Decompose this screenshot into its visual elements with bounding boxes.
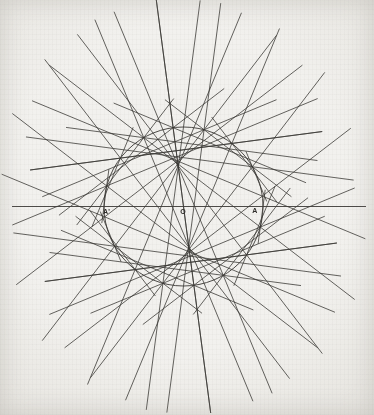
tangent-line — [90, 72, 324, 377]
tangent-line — [95, 20, 253, 402]
tangent-line — [42, 35, 276, 340]
point-label-A-prime: A' — [103, 208, 110, 215]
tangent-line — [90, 210, 156, 296]
point-label-O: O — [180, 208, 186, 215]
figure-canvas: A'OA — [0, 0, 374, 415]
tangent-line — [126, 29, 280, 401]
tangent-line — [45, 243, 337, 281]
tangent-line — [42, 100, 276, 197]
tangent-line — [12, 99, 317, 225]
tangent-line — [143, 198, 308, 325]
tangent-line — [212, 117, 278, 203]
tangent-line — [49, 188, 354, 314]
tangent-line — [88, 13, 242, 385]
tangent-line — [167, 3, 221, 412]
tangent-line — [102, 169, 109, 223]
tangent-line — [258, 190, 265, 244]
tangent-line — [114, 12, 272, 394]
point-label-A: A — [252, 207, 257, 214]
tangent-line — [146, 0, 200, 409]
tangent-line — [90, 216, 324, 313]
geometry-drawing — [0, 0, 374, 415]
tangent-line — [59, 88, 224, 215]
